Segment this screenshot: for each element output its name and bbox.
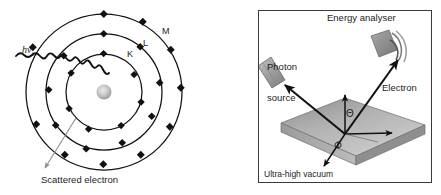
angle-phi-label: Φ	[334, 141, 342, 151]
scattered-electron-arrow	[45, 118, 76, 168]
incoming-photon-label: hνin	[12, 35, 37, 69]
electron-label: Electron	[382, 83, 417, 93]
photon-source-label-line2: source	[267, 93, 297, 103]
energy-analyser-label: Energy analyser	[327, 13, 396, 23]
vacuum-caption: Ultra-high vacuum	[264, 169, 333, 179]
shell-label-M: M	[152, 16, 170, 46]
shell-label-L: L	[133, 28, 148, 58]
scattered-electron-label: Scattered electron	[41, 175, 118, 185]
angle-theta-label: Θ	[346, 109, 354, 119]
photon-source-label-line1: Photon	[267, 62, 297, 72]
shell-label-K: K	[117, 39, 133, 69]
nucleus	[97, 85, 112, 100]
figure-canvas: hνin K L M Scattered electron Energy ana…	[0, 0, 441, 195]
photon-subscript: in	[31, 50, 36, 57]
photon-source-label: Photon source	[267, 42, 297, 123]
